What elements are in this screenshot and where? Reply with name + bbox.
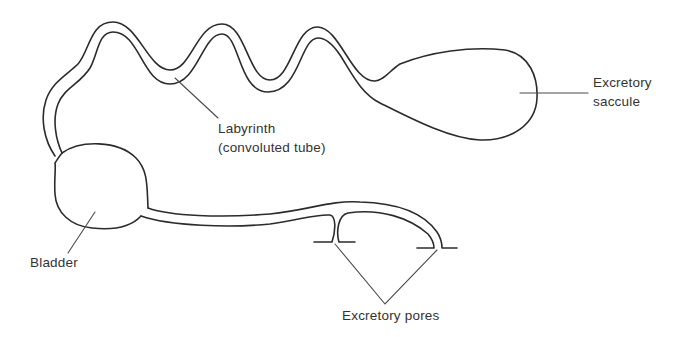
diagram-canvas xyxy=(0,0,695,337)
bladder-label: Bladder xyxy=(30,253,78,272)
labyrinth-label-line1: Labyrinth xyxy=(218,119,326,138)
pores-leader-lines xyxy=(335,244,437,304)
excretory-system-diagram: Labyrinth (convoluted tube) Excretory sa… xyxy=(0,0,695,337)
pores-label: Excretory pores xyxy=(342,306,440,325)
saccule-label: Excretory saccule xyxy=(593,73,652,111)
bladder-label-text: Bladder xyxy=(30,255,78,270)
saccule-label-line2: saccule xyxy=(593,92,652,111)
bladder-outline xyxy=(55,144,148,229)
lower-tube-lower-wall xyxy=(141,215,335,242)
pore-connector-wall xyxy=(338,212,434,248)
labyrinth-label-line2: (convoluted tube) xyxy=(218,138,326,157)
pores-label-text: Excretory pores xyxy=(342,308,440,323)
bladder-leader-line xyxy=(68,212,95,253)
saccule-label-line1: Excretory xyxy=(593,73,652,92)
labyrinth-leader-line xyxy=(175,78,218,118)
labyrinth-label: Labyrinth (convoluted tube) xyxy=(218,119,326,157)
